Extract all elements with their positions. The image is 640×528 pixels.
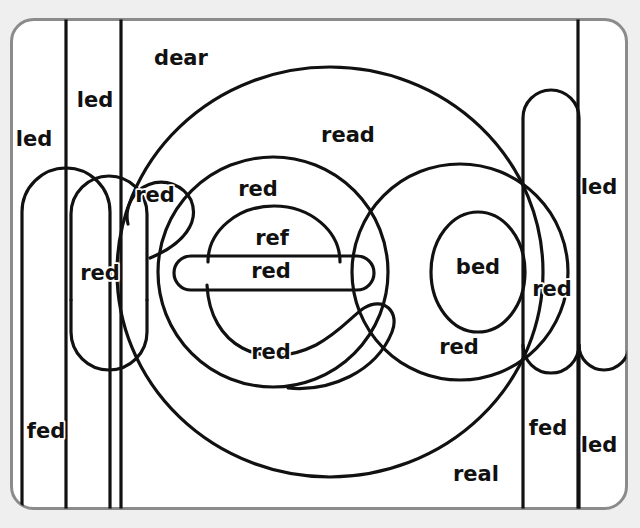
- diagram-canvas: dear led led red read red ref red red re…: [0, 0, 640, 528]
- region-label-led-1: led: [77, 88, 113, 112]
- region-label-real: real: [453, 462, 499, 486]
- region-label-led-3: led: [581, 175, 617, 199]
- region-label-read: read: [321, 123, 375, 147]
- region-label-red-5: red: [251, 340, 291, 364]
- region-label-fed-1: fed: [27, 419, 65, 443]
- region-label-red-3: red: [251, 259, 291, 283]
- region-label-fed-2: fed: [529, 416, 567, 440]
- region-label-led-4: led: [581, 433, 617, 457]
- region-label-bed: bed: [456, 255, 500, 279]
- region-label-red-7: red: [532, 277, 572, 301]
- region-label-ref: ref: [255, 226, 290, 250]
- region-label-red-6: red: [439, 335, 479, 359]
- region-label-led-2: led: [16, 127, 52, 151]
- region-label-red-2: red: [238, 177, 278, 201]
- region-label-red-4: red: [80, 261, 120, 285]
- region-label-red-1: red: [135, 183, 175, 207]
- venn-region-diagram: dear led led red read red ref red red re…: [0, 0, 640, 528]
- region-label-dear: dear: [154, 46, 208, 70]
